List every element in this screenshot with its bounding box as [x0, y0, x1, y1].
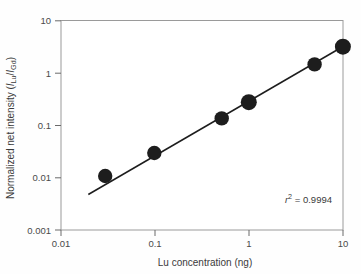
- x-axis-title: Lu concentration (ng): [158, 257, 253, 268]
- y-axis-title-close: ): [5, 57, 16, 60]
- y-tick-label-3: 0.01: [33, 172, 52, 183]
- y-tick-label-1: 1: [46, 68, 51, 79]
- x-tick-label-3: 10: [338, 238, 349, 249]
- r-squared-value: = 0.9994: [292, 194, 332, 205]
- y-axis-title: Normalized net intensity (ILu/IGd): [5, 57, 18, 199]
- y-tick-labels: 10 1 0.1 0.01 0.001: [27, 15, 51, 235]
- svg-text:Normalized net intensity (ILu/: Normalized net intensity (ILu/IGd): [5, 57, 18, 199]
- y-axis-title-lead: Normalized net intensity (: [5, 86, 16, 199]
- y-axis-title-sub2: Gd: [9, 60, 18, 70]
- data-point: [241, 94, 257, 110]
- x-tick-label-1: 0.1: [148, 238, 161, 249]
- data-point: [98, 169, 112, 183]
- x-tick-label-0: 0.01: [52, 238, 71, 249]
- data-point: [147, 146, 161, 160]
- y-axis-ticks: [55, 21, 61, 230]
- data-point: [215, 111, 229, 125]
- data-point: [335, 39, 351, 55]
- r-squared-annotation: r2 = 0.9994: [285, 192, 332, 206]
- x-axis-ticks: [61, 230, 343, 236]
- figure-container: 10 1 0.1 0.01 0.001 0.01 0.1 1 10 Lu con…: [0, 0, 361, 274]
- scatter-plot: 10 1 0.1 0.01 0.001 0.01 0.1 1 10 Lu con…: [0, 0, 361, 274]
- x-tick-labels: 0.01 0.1 1 10: [52, 238, 349, 249]
- y-tick-label-2: 0.1: [38, 120, 51, 131]
- y-tick-label-0: 10: [40, 15, 51, 26]
- y-tick-label-4: 0.001: [27, 225, 51, 236]
- y-axis-title-sub1: Lu: [9, 75, 18, 83]
- x-tick-label-2: 1: [246, 238, 251, 249]
- data-point: [307, 57, 321, 71]
